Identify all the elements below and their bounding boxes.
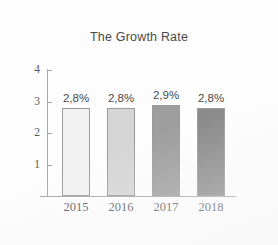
bar-chart-plot-area: 4 3 2 1 2,8% 2,8% 2,9% 2,8% 2015 2016 20… [0,0,278,245]
y-axis-tick-mark [47,70,52,71]
y-axis-tick-label: 1 [18,158,40,170]
x-axis-line [40,196,236,197]
x-axis-label-2018: 2018 [188,200,234,215]
y-axis-tick-mark [47,165,52,166]
bar-2015[interactable] [62,108,90,196]
bar-2016[interactable] [107,108,135,196]
bar-value-label-2017: 2,9% [143,89,189,101]
y-axis-tick-mark [47,133,52,134]
y-axis-tick-label: 3 [18,95,40,107]
y-axis-tick-label: 2 [18,126,40,138]
bar-2017[interactable] [152,105,180,196]
x-axis-label-2015: 2015 [53,200,99,215]
y-axis-tick-mark [47,102,52,103]
x-axis-label-2017: 2017 [143,200,189,215]
bar-2018[interactable] [197,108,225,196]
bar-value-label-2015: 2,8% [53,92,99,104]
bar-value-label-2018: 2,8% [188,92,234,104]
chart-screenshot: The Growth Rate 4 3 2 1 2,8% 2,8% 2,9% 2… [0,0,278,245]
bar-value-label-2016: 2,8% [98,92,144,104]
y-axis-tick-label: 4 [18,63,40,75]
x-axis-label-2016: 2016 [98,200,144,215]
